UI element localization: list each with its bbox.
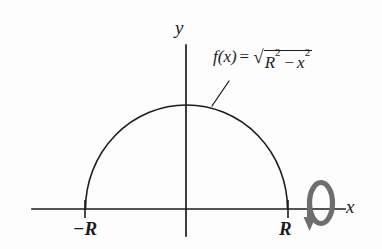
formula-base-x: x: [297, 53, 305, 72]
x-axis-label: x: [346, 197, 354, 216]
revolution-arrow-icon: [304, 183, 333, 232]
tick-label-positive-r: R: [279, 219, 292, 238]
formula-equals-sign: =: [240, 48, 250, 65]
formula-exponent-x: 2: [305, 46, 311, 58]
formula-base-r: R: [265, 53, 275, 72]
y-axis-label: y: [175, 18, 183, 37]
function-formula: f(x) = √ R2−x2: [213, 48, 312, 71]
tick-label-negative-r: −R: [73, 219, 97, 238]
formula-radicand: R2−x2: [264, 50, 313, 71]
formula-leader-line: [212, 81, 229, 106]
formula-exponent-r: 2: [275, 46, 281, 58]
diagram-canvas: [0, 0, 382, 249]
formula-radical: √ R2−x2: [253, 48, 312, 71]
figure-container: y x −R R f(x) = √ R2−x2: [0, 0, 382, 249]
formula-minus-operator: −: [285, 53, 295, 72]
formula-function-name: f(x): [213, 48, 237, 65]
radical-sign-icon: √: [253, 48, 263, 66]
